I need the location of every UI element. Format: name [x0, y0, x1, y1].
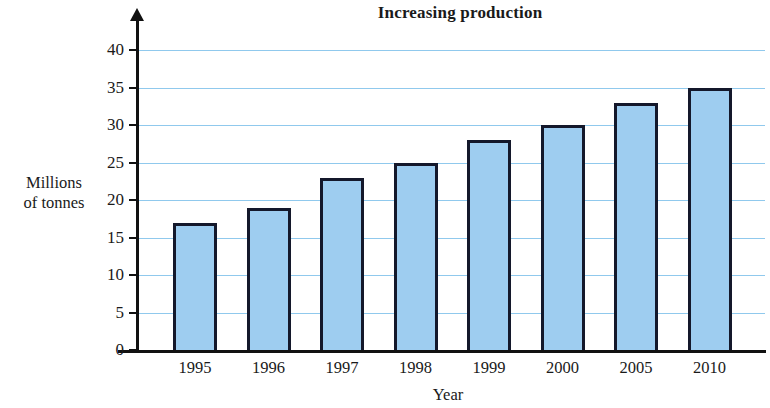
gridline — [138, 125, 765, 126]
x-axis-tick-label: 2010 — [673, 358, 747, 377]
y-axis-tick — [129, 87, 139, 89]
y-axis-tick — [129, 349, 139, 351]
y-axis-tick-label: 40 — [92, 41, 124, 58]
y-axis-tick — [129, 274, 139, 276]
y-axis-tick-label: 20 — [92, 191, 124, 208]
bar[interactable] — [320, 178, 364, 351]
y-axis-line — [136, 18, 139, 352]
y-axis-label-line-1: Millions — [2, 173, 106, 193]
y-axis-tick-label: 25 — [92, 154, 124, 171]
gridline — [138, 163, 765, 164]
y-axis-tick-label: 0 — [92, 341, 124, 358]
x-axis-tick-label: 1997 — [305, 358, 379, 377]
bar[interactable] — [394, 163, 438, 351]
plot-area — [138, 14, 765, 350]
y-axis-tick — [129, 199, 139, 201]
x-axis-tick-label: 1998 — [379, 358, 453, 377]
bar[interactable] — [247, 208, 291, 351]
bar[interactable] — [541, 125, 585, 350]
y-axis-tick-label: 30 — [92, 116, 124, 133]
gridline — [138, 238, 765, 239]
gridline — [138, 200, 765, 201]
y-axis-label: Millions of tonnes — [2, 173, 106, 213]
x-axis-tick-label: 2005 — [599, 358, 673, 377]
bar[interactable] — [688, 88, 732, 351]
bar[interactable] — [467, 140, 511, 350]
y-axis-arrow-icon — [130, 8, 144, 21]
y-axis-tick — [129, 162, 139, 164]
gridline — [138, 50, 765, 51]
x-axis-tick-label: 1995 — [158, 358, 232, 377]
y-axis-tick-label: 10 — [92, 266, 124, 283]
y-axis-tick — [129, 237, 139, 239]
y-axis-tick-label: 15 — [92, 229, 124, 246]
bar-chart: Increasing production Millions of tonnes… — [0, 0, 770, 408]
gridline — [138, 313, 765, 314]
gridline — [138, 275, 765, 276]
bar[interactable] — [173, 223, 217, 351]
y-axis-tick-label: 5 — [92, 304, 124, 321]
x-axis-tick-label: 1999 — [452, 358, 526, 377]
y-axis-label-line-2: of tonnes — [2, 193, 106, 213]
x-axis-line — [118, 350, 766, 353]
gridline — [138, 88, 765, 89]
x-axis-tick-label: 2000 — [526, 358, 600, 377]
y-axis-tick-label: 35 — [92, 79, 124, 96]
y-axis-tick — [129, 124, 139, 126]
y-axis-tick — [129, 49, 139, 51]
x-axis-label: Year — [403, 385, 493, 405]
y-axis-tick — [129, 312, 139, 314]
bar[interactable] — [614, 103, 658, 351]
x-axis-tick-label: 1996 — [232, 358, 306, 377]
